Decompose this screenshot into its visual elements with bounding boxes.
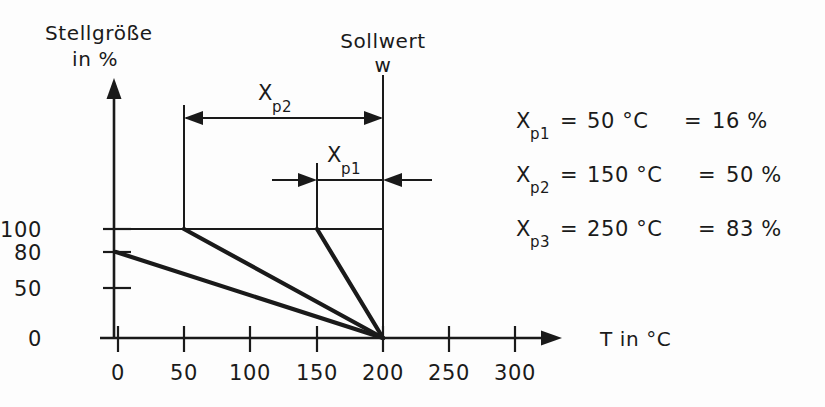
setpoint-symbol: w — [375, 53, 392, 77]
y-axis-title-line1: Stellgröße — [45, 21, 153, 45]
dimension-xp2-label-sub: p2 — [272, 98, 292, 116]
x-tick-label-50: 50 — [170, 361, 198, 385]
dimension-xp1-arrowhead-left — [298, 173, 317, 187]
y-tick-label-100: 100 — [0, 218, 42, 242]
legend-row-xp2: X p2 = 150 °C = 50 % — [516, 163, 782, 197]
x-tick-label-300: 300 — [494, 361, 536, 385]
diagram-page: Stellgröße in % 100 80 50 0 T in °C 0 — [0, 0, 825, 407]
x-tick-label-200: 200 — [362, 361, 404, 385]
x-tick-label-250: 250 — [428, 361, 470, 385]
legend: X p1 = 50 °C = 16 % X p2 = 150 °C = 50 %… — [516, 109, 782, 251]
dimension-xp1-arrowhead-right — [383, 173, 402, 187]
x-tick-group: 0 50 100 150 200 250 300 — [111, 326, 536, 385]
x-tick-label-100: 100 — [229, 361, 271, 385]
legend-row-xp1: X p1 = 50 °C = 16 % — [516, 109, 768, 143]
x-axis-group — [100, 331, 562, 346]
legend-row-1-equals-1: = — [560, 163, 578, 187]
y-axis-group — [107, 78, 122, 338]
dimension-xp1-label: X — [327, 143, 342, 167]
legend-row-0-temperature: 50 °C — [587, 109, 649, 133]
dimension-xp2-label: X — [258, 81, 273, 105]
dimension-xp2-arrowhead-right — [364, 111, 383, 125]
x-axis-title: T in °C — [599, 327, 671, 351]
legend-row-0-percent: 16 % — [712, 109, 768, 133]
proportional-band-diagram: Stellgröße in % 100 80 50 0 T in °C 0 — [0, 0, 825, 407]
legend-row-0-symbol-sub: p1 — [530, 125, 550, 143]
legend-row-2-percent: 83 % — [726, 217, 782, 241]
x-tick-label-0: 0 — [111, 361, 125, 385]
x-axis-arrowhead — [541, 331, 562, 346]
y-axis-arrowhead — [107, 78, 122, 99]
legend-row-1-equals-2: = — [698, 163, 716, 187]
legend-row-xp3: X p3 = 250 °C = 83 % — [516, 217, 782, 251]
y-tick-label-0: 0 — [28, 327, 42, 351]
dimension-xp2: X p2 — [184, 81, 383, 125]
y-tick-label-80: 80 — [14, 241, 42, 265]
legend-row-2-temperature: 250 °C — [587, 217, 663, 241]
legend-row-2-symbol: X — [516, 217, 531, 241]
legend-row-1-percent: 50 % — [726, 163, 782, 187]
legend-row-1-symbol-sub: p2 — [530, 179, 550, 197]
dimension-xp2-arrowhead-left — [184, 111, 203, 125]
legend-row-0-equals-1: = — [560, 109, 578, 133]
legend-row-1-symbol: X — [516, 163, 531, 187]
y-tick-label-50: 50 — [14, 277, 42, 301]
y-axis-title-line2: in % — [72, 47, 118, 71]
legend-row-2-symbol-sub: p3 — [530, 233, 550, 251]
legend-row-0-equals-2: = — [684, 109, 702, 133]
dimension-xp1: X p1 — [272, 143, 432, 187]
dimension-xp1-label-sub: p1 — [341, 160, 361, 178]
y-tick-group: 100 80 50 0 — [0, 218, 131, 351]
legend-row-2-equals-2: = — [698, 217, 716, 241]
legend-row-1-temperature: 150 °C — [587, 163, 663, 187]
legend-row-2-equals-1: = — [560, 217, 578, 241]
x-tick-label-150: 150 — [296, 361, 338, 385]
setpoint-label: Sollwert — [340, 29, 426, 53]
legend-row-0-symbol: X — [516, 109, 531, 133]
